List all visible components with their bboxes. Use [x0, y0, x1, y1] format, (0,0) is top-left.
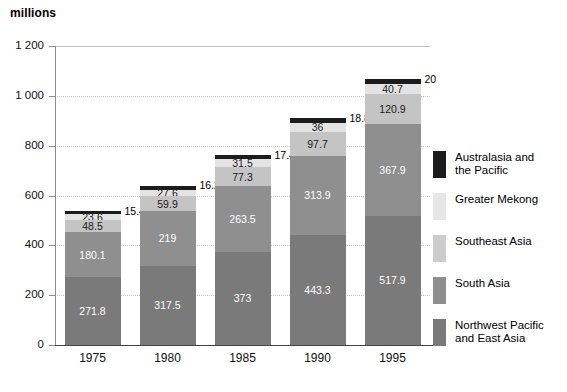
- legend-label: Greater Mekong: [455, 192, 538, 206]
- bar-segment: [290, 118, 346, 123]
- bar-segment: 313.9: [290, 156, 346, 234]
- bar-segment-value: 40.7: [382, 84, 402, 94]
- legend-label: Australasia andthe Pacific: [455, 150, 534, 177]
- legend-label: South Asia: [455, 276, 510, 290]
- bar-segment: 23.6: [65, 214, 121, 220]
- y-axis-tick-label: 400: [0, 238, 44, 250]
- stacked-bar-chart: millions 02004006008001 0001 200 15.4271…: [0, 0, 567, 392]
- bar-segment: 219: [140, 211, 196, 266]
- bar-segment-value: 59.9: [157, 199, 177, 210]
- bar-segment: 59.9: [140, 196, 196, 211]
- legend-label: Northwest Pacificand East Asia: [455, 318, 544, 345]
- bar-segment-value: 97.7: [307, 139, 327, 150]
- bar-segment-value: 27.6: [157, 190, 177, 197]
- x-axis-tick-label: 1980: [130, 351, 206, 365]
- bar-segment: 367.9: [365, 124, 421, 216]
- bar-segment: 263.5: [215, 186, 271, 252]
- y-axis-tick-label: 1 200: [0, 39, 44, 51]
- legend-label: Southeast Asia: [455, 234, 532, 248]
- y-axis-title: millions: [10, 6, 56, 20]
- bar-segment-value: 367.9: [379, 165, 405, 176]
- legend-item[interactable]: Greater Mekong: [433, 192, 563, 220]
- x-axis-line: [55, 345, 433, 346]
- x-axis-tick-label: 1985: [205, 351, 281, 365]
- bar-segment: [215, 155, 271, 159]
- legend-swatch: [433, 193, 446, 220]
- bar-1975[interactable]: 271.8180.148.523.6: [65, 46, 121, 345]
- bar-segment: 48.5: [65, 220, 121, 232]
- y-axis-tick-label: 600: [0, 189, 44, 201]
- bar-segment: 373: [215, 252, 271, 345]
- bar-segment-value: 271.8: [79, 306, 105, 317]
- legend-item[interactable]: South Asia: [433, 276, 563, 304]
- bar-segment: 317.5: [140, 266, 196, 345]
- bar-1980[interactable]: 317.521959.927.6: [140, 46, 196, 345]
- legend-swatch: [433, 151, 446, 178]
- legend-swatch: [433, 319, 446, 346]
- bar-segment: 77.3: [215, 167, 271, 186]
- y-axis-tick-label: 0: [0, 338, 44, 350]
- legend-item[interactable]: Southeast Asia: [433, 234, 563, 262]
- y-axis-tick-label: 1 000: [0, 89, 44, 101]
- bar-segment: 40.7: [365, 84, 421, 94]
- legend-swatch: [433, 277, 446, 304]
- y-axis-line: [55, 46, 56, 345]
- bar-segment: 31.5: [215, 159, 271, 167]
- bar-segment-value: 373: [234, 293, 252, 304]
- bar-segment: 36: [290, 123, 346, 132]
- y-axis-tick-label: 800: [0, 139, 44, 151]
- bar-segment: [365, 79, 421, 84]
- bar-segment: 120.9: [365, 94, 421, 124]
- bar-1990[interactable]: 443.3313.997.736: [290, 46, 346, 345]
- bar-segment-value: 263.5: [229, 214, 255, 225]
- bar-segment-value: 120.9: [379, 104, 405, 115]
- bar-segment: 271.8: [65, 277, 121, 345]
- x-axis-tick-label: 1975: [55, 351, 131, 365]
- bar-segment-value: 36: [312, 123, 324, 132]
- bar-segment: [140, 186, 196, 190]
- bar-segment-value: 23.6: [82, 214, 102, 220]
- bar-segment-value: 443.3: [304, 285, 330, 296]
- bar-segment-value: 517.9: [379, 275, 405, 286]
- bar-segment-value: 48.5: [82, 221, 102, 232]
- bar-segment: 517.9: [365, 216, 421, 345]
- x-axis-tick-label: 1995: [355, 351, 431, 365]
- bar-1985[interactable]: 373263.577.331.5: [215, 46, 271, 345]
- bar-segment-value: 77.3: [232, 172, 252, 183]
- bar-segment: 97.7: [290, 132, 346, 156]
- bar-segment-value: 31.5: [232, 159, 252, 167]
- chart-legend: Australasia andthe PacificGreater Mekong…: [433, 150, 563, 360]
- bar-segment-value: 313.9: [304, 190, 330, 201]
- y-axis-tick-label: 200: [0, 288, 44, 300]
- bar-segment-value: 317.5: [154, 300, 180, 311]
- bar-segment: 27.6: [140, 190, 196, 197]
- legend-swatch: [433, 235, 446, 262]
- bar-segment-value: 180.1: [79, 250, 105, 261]
- legend-item[interactable]: Northwest Pacificand East Asia: [433, 318, 563, 346]
- bar-1995[interactable]: 517.9367.9120.940.7: [365, 46, 421, 345]
- legend-item[interactable]: Australasia andthe Pacific: [433, 150, 563, 178]
- bar-segment-value-outside: 20: [425, 73, 437, 85]
- bar-segment: 180.1: [65, 232, 121, 277]
- bar-segment-value: 219: [159, 233, 177, 244]
- bar-segment: [65, 211, 121, 215]
- x-axis-tick-label: 1990: [280, 351, 356, 365]
- bar-segment: 443.3: [290, 235, 346, 345]
